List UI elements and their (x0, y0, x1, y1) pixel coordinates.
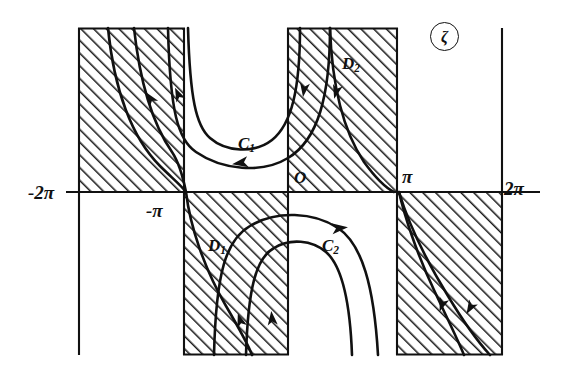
region-label-d2-base: D (342, 54, 354, 73)
contour-label-c1: C1 (238, 134, 255, 155)
region-label-d2: D2 (342, 54, 360, 75)
contour-label-c2: C2 (322, 236, 339, 257)
hatched-band-lower-right (397, 192, 502, 355)
zeta-plane-badge: ζ (430, 22, 459, 51)
axis-label-neg-two-pi: -2π (28, 182, 54, 204)
region-label-d1: D1 (208, 236, 226, 257)
axis-label-two-pi: 2π (504, 178, 524, 200)
region-label-d2-subscript: 2 (354, 62, 360, 75)
contour-c1-inner-left (188, 28, 300, 150)
axis-label-pi: π (402, 166, 412, 188)
contour-label-c2-subscript: 2 (333, 244, 339, 257)
axis-label-origin: O (294, 168, 306, 188)
arrow-c2-rightward (331, 222, 348, 235)
contour-label-c2-base: C (322, 236, 333, 255)
region-label-d1-base: D (208, 236, 220, 255)
zeta-plane-figure (0, 0, 562, 391)
contour-label-c1-base: C (238, 134, 249, 153)
region-label-d1-subscript: 1 (220, 244, 226, 257)
axis-label-neg-pi: -π (146, 200, 163, 222)
contour-label-c1-subscript: 1 (249, 142, 255, 155)
